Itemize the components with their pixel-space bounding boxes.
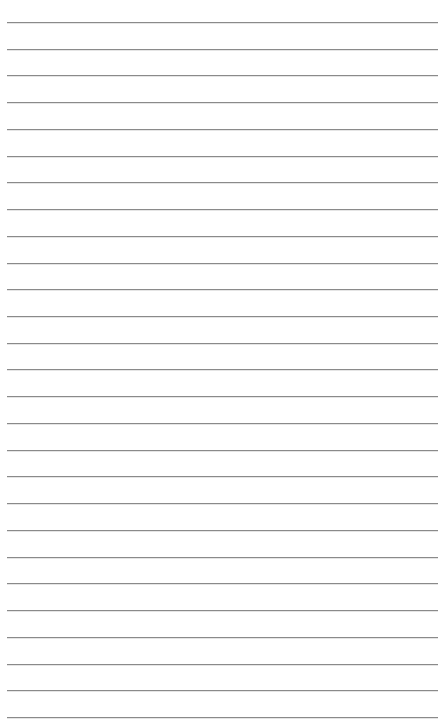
ruled-line <box>7 530 438 531</box>
ruled-line <box>7 583 438 584</box>
ruled-line <box>7 289 438 290</box>
ruled-line <box>7 423 438 424</box>
ruled-line <box>7 182 438 183</box>
ruled-line <box>7 503 438 504</box>
ruled-line <box>7 690 438 691</box>
ruled-line <box>7 129 438 130</box>
ruled-line <box>7 236 438 237</box>
ruled-line <box>7 664 438 665</box>
ruled-line <box>7 75 438 76</box>
ruled-line <box>7 209 438 210</box>
lined-paper-page <box>0 0 448 721</box>
ruled-line <box>7 610 438 611</box>
ruled-line <box>7 102 438 103</box>
ruled-line <box>7 396 438 397</box>
ruled-line <box>7 476 438 477</box>
ruled-line <box>7 263 438 264</box>
ruled-line <box>7 717 438 718</box>
ruled-line <box>7 316 438 317</box>
ruled-line <box>7 49 438 50</box>
ruled-line <box>7 22 438 23</box>
ruled-line <box>7 343 438 344</box>
ruled-line <box>7 450 438 451</box>
ruled-line <box>7 557 438 558</box>
ruled-line <box>7 637 438 638</box>
ruled-line <box>7 156 438 157</box>
ruled-line <box>7 369 438 370</box>
